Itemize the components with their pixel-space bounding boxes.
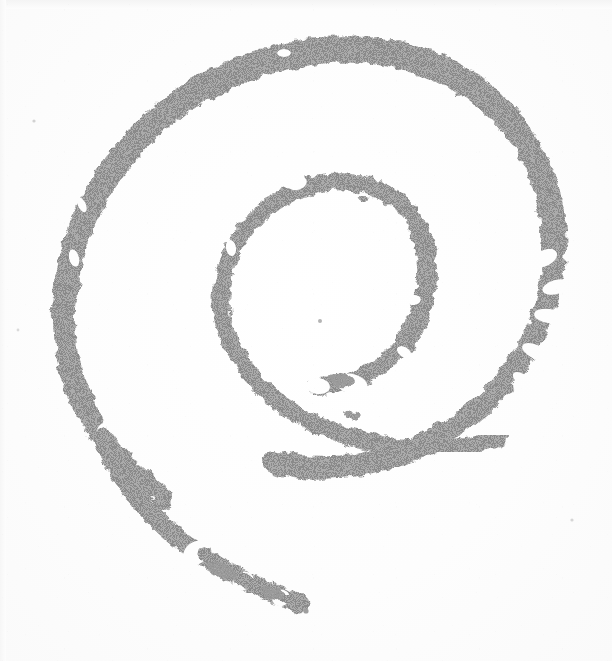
inner-arc-right-flank xyxy=(400,228,428,348)
speck-top-edge xyxy=(305,40,309,44)
blob-inner-dash xyxy=(343,411,361,419)
speck-upper-left xyxy=(32,119,35,122)
spiral-swirl-illustration xyxy=(0,0,612,661)
speck-tail-tip xyxy=(303,608,308,613)
speck-center xyxy=(318,319,322,323)
scanned-image-canvas xyxy=(0,0,612,661)
speck-mid-left xyxy=(17,329,20,332)
inner-arc-connector xyxy=(240,358,414,448)
stray-specks xyxy=(17,40,574,614)
blob-inner-upper xyxy=(359,196,369,204)
outer-arc-thick-top xyxy=(66,50,554,300)
speck-tail-trail xyxy=(244,584,248,588)
spiral-tail-taper xyxy=(205,554,299,603)
speck-lower-right xyxy=(570,518,573,521)
